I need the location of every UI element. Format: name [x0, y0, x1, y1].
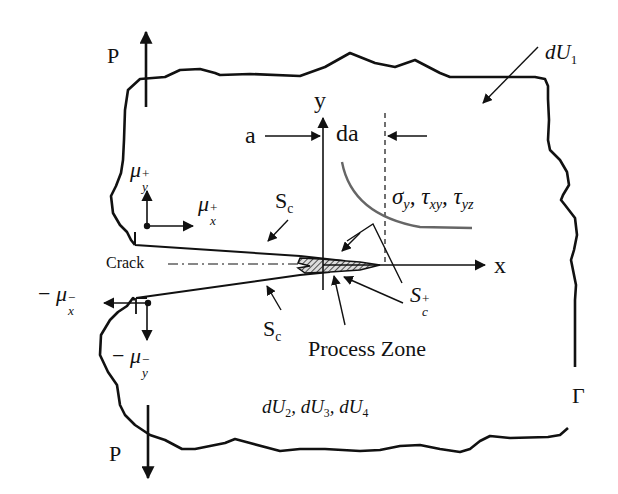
mu-y-minus-sub: y [142, 367, 149, 380]
mu-y-plus-sub: y [142, 181, 149, 194]
boundary-lower [100, 298, 568, 452]
sep-1: , [410, 184, 422, 209]
du1-sub: 1 [571, 52, 578, 67]
du2-base: dU [262, 396, 285, 417]
sigma-y: σ [392, 184, 403, 209]
lower-notch [136, 298, 147, 314]
label-sc-upper: Sc [275, 190, 293, 215]
sc-upper-pointer [268, 220, 288, 241]
du1-base: dU [545, 40, 571, 64]
mu-x-plus-sub: x [210, 215, 217, 228]
label-disp-y-plus: μ+y [130, 159, 149, 193]
tau-xy-sub: xy [429, 196, 442, 212]
label-disp-x-minus: − μ−x [38, 283, 75, 317]
label-crack: Crack [106, 255, 144, 271]
mu-y-minus-base: μ [130, 343, 141, 368]
disp-minus-origin [145, 300, 151, 306]
label-boundary: Γ [572, 385, 585, 407]
tau-yz-sub: yz [462, 196, 474, 212]
sc-upper-base: S [275, 188, 287, 213]
process-zone-pointer [334, 276, 345, 325]
du4-base: , dU [330, 396, 363, 417]
label-load-top: P [107, 45, 119, 67]
du3-base: , dU [291, 396, 324, 417]
crack-face-upper [135, 232, 300, 256]
du1-arrow [483, 47, 538, 103]
sc-upper-sub: c [287, 201, 293, 216]
label-axis-x: x [494, 253, 506, 277]
mu-y-plus-base: μ [130, 157, 141, 182]
mu-y-minus-prefix: − [112, 343, 130, 368]
sc-plus-pointer-upper [342, 233, 360, 251]
mu-x-minus-sub: x [68, 305, 75, 318]
label-process-zone: Process Zone [308, 338, 426, 360]
label-disp-y-minus: − μ−y [112, 345, 149, 379]
mu-x-minus-prefix: − [38, 281, 56, 306]
label-du1: dU1 [545, 42, 577, 66]
sc-lower-pointer [267, 286, 281, 310]
sc-plus-sub: c [422, 306, 429, 319]
label-disp-x-plus: μ+x [198, 193, 217, 227]
label-sc-lower: Sc [263, 318, 281, 343]
sc-plus-pointer-lower [344, 277, 403, 303]
du4-sub: 4 [362, 407, 368, 420]
label-crack-length: a [245, 123, 256, 147]
label-load-bottom: P [109, 443, 121, 465]
crack-face-lower [136, 272, 330, 298]
disp-plus-origin [144, 223, 150, 229]
mu-x-plus-base: μ [198, 191, 209, 216]
sc-lower-sub: c [275, 329, 281, 344]
label-du234: dU2, dU3, dU4 [262, 397, 368, 420]
sc-plus-base: S [410, 282, 421, 307]
diagram-canvas [0, 0, 618, 494]
mu-x-minus-base: μ [56, 281, 67, 306]
label-crack-increment: da [336, 121, 359, 145]
sc-lower-base: S [263, 316, 275, 341]
label-sc-plus: S+c [410, 284, 429, 318]
tau-yz: τ [454, 184, 462, 209]
sc-plus-bracket [347, 224, 402, 283]
label-stresses: σy, τxy, τyz [392, 185, 474, 211]
sep-2: , [442, 184, 454, 209]
label-axis-y: y [314, 88, 326, 112]
